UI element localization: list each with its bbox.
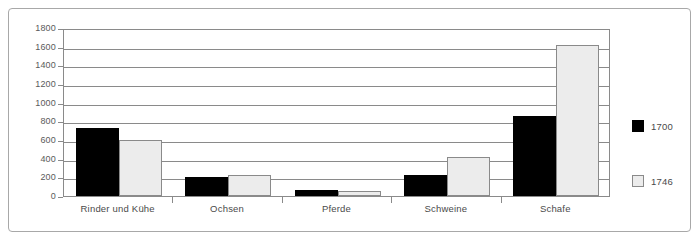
plot-area	[63, 29, 610, 197]
x-axis-category-label: Pferde	[282, 203, 391, 215]
gridline	[64, 67, 609, 68]
bar-pferde-1746	[338, 191, 381, 196]
y-axis-tick-label: 1800	[10, 24, 56, 33]
y-axis-tick-label: 800	[10, 117, 56, 126]
bar-schafe-1746	[556, 45, 599, 196]
x-axis-category-label: Schafe	[501, 203, 610, 215]
x-axis-tick-mark	[282, 197, 283, 203]
gridline	[64, 86, 609, 87]
legend-item-1700: 1700	[632, 120, 673, 132]
legend-label: 1746	[651, 176, 673, 187]
x-axis-tick-mark	[501, 197, 502, 203]
x-axis-category-label: Schweine	[391, 203, 500, 215]
y-axis-tick-mark	[58, 197, 63, 198]
legend-label: 1700	[651, 121, 673, 132]
bar-rinder-und-kühe-1700	[76, 128, 119, 196]
bar-pferde-1700	[295, 190, 338, 196]
x-axis-tick-mark	[172, 197, 173, 203]
y-axis-tick-label: 1600	[10, 43, 56, 52]
x-axis-category-label: Rinder und Kühe	[63, 203, 172, 215]
y-axis-tick-label: 600	[10, 136, 56, 145]
light-gray-square-swatch	[632, 175, 644, 187]
bar-ochsen-1746	[228, 175, 271, 196]
bar-schweine-1700	[404, 175, 447, 196]
gridline	[64, 105, 609, 106]
gridline	[64, 49, 609, 50]
y-axis-tick-label: 1400	[10, 61, 56, 70]
y-axis-tick-label: 1000	[10, 99, 56, 108]
y-axis-tick-label: 1200	[10, 80, 56, 89]
y-axis-tick-label: 200	[10, 173, 56, 182]
x-axis-tick-mark	[391, 197, 392, 203]
bar-chart-figure: 020040060080010001200140016001800 Rinder…	[0, 0, 699, 241]
bar-rinder-und-kühe-1746	[119, 140, 162, 196]
bar-schweine-1746	[447, 157, 490, 196]
y-axis-tick-label: 0	[10, 192, 56, 201]
bar-schafe-1700	[513, 116, 556, 196]
bar-ochsen-1700	[185, 177, 228, 196]
x-axis-category-label: Ochsen	[172, 203, 281, 215]
y-axis-tick-label: 400	[10, 155, 56, 164]
legend-item-1746: 1746	[632, 175, 673, 187]
black-square-swatch	[632, 120, 644, 132]
